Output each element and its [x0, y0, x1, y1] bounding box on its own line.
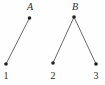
- node-label-b: B: [72, 2, 78, 12]
- edge-layer: [6, 17, 96, 64]
- graph-node-1: [4, 62, 8, 66]
- graph-node-a: [28, 16, 32, 20]
- graph-node-3: [94, 62, 98, 66]
- node-label-3: 3: [94, 71, 99, 81]
- graph-edge: [74, 17, 96, 64]
- graph-edge: [6, 18, 30, 64]
- graph-node-2: [51, 61, 55, 65]
- node-label-a: A: [27, 2, 33, 12]
- graph-diagram: AB123: [0, 0, 105, 85]
- node-label-1: 1: [4, 71, 9, 81]
- graph-edge: [53, 17, 74, 63]
- graph-node-b: [72, 15, 76, 19]
- node-label-2: 2: [51, 71, 56, 81]
